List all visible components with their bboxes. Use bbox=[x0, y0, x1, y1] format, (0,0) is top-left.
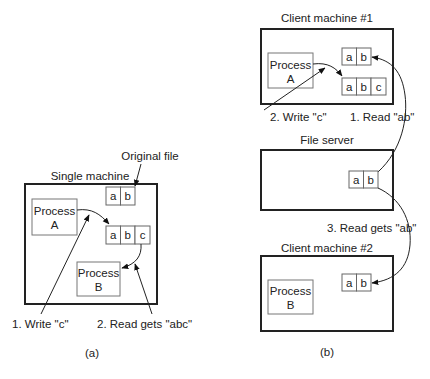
svg-text:a: a bbox=[346, 277, 353, 289]
caption-b: (b) bbox=[320, 346, 334, 358]
original-file-pointer-arrow bbox=[135, 164, 141, 186]
process-a-label: Process bbox=[34, 205, 76, 217]
cell-b: b bbox=[125, 190, 131, 202]
svg-text:A: A bbox=[287, 73, 295, 85]
process-b-id: B bbox=[95, 281, 103, 293]
modified-file-cells: a b c bbox=[106, 226, 150, 244]
step1-label: 1. Write "c" bbox=[12, 318, 69, 330]
client2-label: Client machine #2 bbox=[281, 242, 373, 254]
svg-text:B: B bbox=[287, 299, 295, 311]
single-machine-label: Single machine bbox=[51, 170, 130, 182]
client1-cached-cells: a b bbox=[342, 48, 371, 65]
caption-a: (a) bbox=[85, 347, 99, 359]
diagram-canvas: Single machine Original file a b Process… bbox=[0, 0, 430, 379]
read-gets-ab-arrow bbox=[372, 188, 410, 283]
client1-write-arrow bbox=[313, 64, 342, 76]
svg-text:b: b bbox=[361, 51, 367, 63]
svg-text:b: b bbox=[361, 81, 367, 93]
svg-text:a: a bbox=[346, 81, 353, 93]
client1-label: Client machine #1 bbox=[281, 12, 373, 24]
svg-text:a: a bbox=[346, 51, 353, 63]
panel-b: Client machine #1 a b Process A a b c 2.… bbox=[261, 12, 416, 358]
file-server-cells: a b bbox=[349, 171, 378, 188]
svg-text:a: a bbox=[353, 174, 360, 186]
svg-text:b: b bbox=[361, 277, 367, 289]
file-server-label: File server bbox=[300, 134, 354, 146]
cell-a: a bbox=[110, 190, 117, 202]
svg-text:Process: Process bbox=[270, 59, 312, 71]
step3-label: 3. Read gets "ab" bbox=[327, 222, 416, 234]
svg-text:c: c bbox=[140, 229, 146, 241]
process-b-label: Process bbox=[78, 267, 120, 279]
svg-text:Process: Process bbox=[270, 285, 312, 297]
svg-text:c: c bbox=[376, 81, 382, 93]
client2-cached-cells: a b bbox=[342, 274, 371, 291]
panel-a: Single machine Original file a b Process… bbox=[12, 150, 192, 359]
step2-label: 2. Write "c" bbox=[270, 111, 327, 123]
original-file-cells: a b bbox=[106, 187, 135, 205]
original-file-label: Original file bbox=[121, 150, 179, 162]
svg-text:b: b bbox=[368, 174, 374, 186]
svg-text:a: a bbox=[110, 229, 117, 241]
write-arrow bbox=[77, 210, 109, 224]
step2-pointer-arrow bbox=[135, 264, 152, 314]
step2-label: 2. Read gets "abc" bbox=[97, 318, 192, 330]
process-a-id: A bbox=[51, 219, 59, 231]
client1-modified-cells: a b c bbox=[342, 78, 386, 95]
svg-text:b: b bbox=[125, 229, 131, 241]
read-arrow bbox=[122, 244, 141, 268]
